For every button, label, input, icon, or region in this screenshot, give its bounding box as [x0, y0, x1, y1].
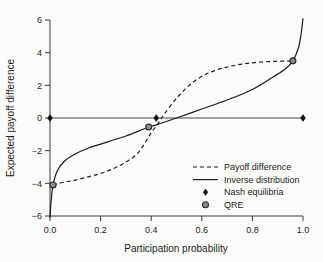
y-tick-label: 6 — [37, 15, 42, 25]
y-axis: 6420−2−4−6 — [32, 15, 50, 221]
nash-equilibrium-marker — [154, 115, 159, 122]
x-axis: 0.00.20.40.60.81.0 — [44, 216, 310, 235]
qre-marker — [290, 58, 296, 64]
legend-diamond-icon — [203, 189, 208, 195]
nash-equilibrium-marker — [48, 115, 53, 122]
x-tick-label: 0.6 — [196, 225, 209, 235]
x-tick-label: 1.0 — [297, 225, 310, 235]
qre-marker — [146, 124, 152, 130]
y-tick-group: 6420−2−4−6 — [32, 15, 50, 221]
legend-label: Inverse distribution — [224, 175, 300, 185]
y-axis-title: Expected payoff difference — [5, 59, 16, 177]
nash-equilibrium-marker — [301, 115, 306, 122]
legend-label: Nash equilibria — [224, 187, 284, 197]
qre-marker — [50, 182, 56, 188]
legend-circle-icon — [203, 202, 209, 208]
y-tick-label: −6 — [32, 211, 42, 221]
x-tick-label: 0.8 — [246, 225, 259, 235]
y-tick-label: −4 — [32, 179, 42, 189]
chart-figure: 6420−2−4−6 0.00.20.40.60.81.0 Participat… — [0, 0, 323, 262]
legend-label: QRE — [224, 200, 244, 210]
chart-legend: Payoff differenceInverse distributionNas… — [193, 162, 300, 210]
y-tick-label: 0 — [37, 113, 42, 123]
y-tick-label: 2 — [37, 81, 42, 91]
x-tick-group: 0.00.20.40.60.81.0 — [44, 216, 310, 235]
y-tick-label: −2 — [32, 146, 42, 156]
x-axis-title: Participation probability — [124, 243, 227, 254]
x-tick-label: 0.2 — [94, 225, 107, 235]
chart-canvas: 6420−2−4−6 0.00.20.40.60.81.0 Participat… — [0, 0, 323, 262]
y-tick-label: 4 — [37, 48, 42, 58]
x-tick-label: 0.4 — [145, 225, 158, 235]
legend-label: Payoff difference — [224, 162, 291, 172]
x-tick-label: 0.0 — [44, 225, 57, 235]
